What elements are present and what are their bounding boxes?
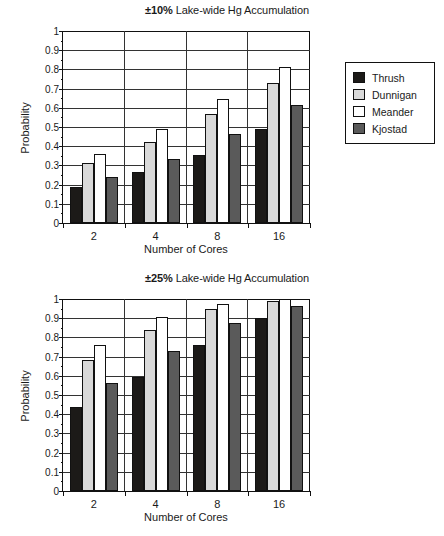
y-axis-tick-label: 0.3 <box>45 160 59 171</box>
y-axis-tick-label: 0.8 <box>45 64 59 75</box>
y-axis-tick-label: 0.1 <box>45 198 59 209</box>
bar-group <box>248 299 310 491</box>
bar-kjostad-16 <box>291 306 303 491</box>
plot-area-10pct: 00.10.20.30.40.50.60.70.80.91 24816 <box>62 31 310 224</box>
y-axis-label: Probability <box>18 31 32 224</box>
bar-thrush-8 <box>193 155 205 223</box>
x-axis-tick-mark <box>125 223 126 228</box>
bar-thrush-2 <box>70 407 82 491</box>
bar-thrush-16 <box>255 129 267 223</box>
y-axis-tick-label: 0.9 <box>45 313 59 324</box>
bar-dunnigan-2 <box>82 163 94 223</box>
y-axis-tick-label: 0.7 <box>45 351 59 362</box>
x-axis-tick-label: 16 <box>273 498 285 510</box>
y-axis-tick-label: 0.7 <box>45 83 59 94</box>
y-axis-tick-label: 0.6 <box>45 370 59 381</box>
x-axis-label: Number of Cores <box>62 511 310 523</box>
bar-group <box>187 299 249 491</box>
x-axis-tick-mark <box>310 223 311 228</box>
legend-item-dunnigan: Dunnigan <box>353 86 429 103</box>
legend-item-thrush: Thrush <box>353 69 429 86</box>
x-axis-tick-mark <box>63 491 64 496</box>
legend-label: Meander <box>372 106 413 118</box>
bar-dunnigan-16 <box>267 83 279 223</box>
chart-title-rest: Lake-wide Hg Accumulation <box>173 4 309 16</box>
legend-item-meander: Meander <box>353 103 429 120</box>
x-axis-tick-label: 16 <box>273 230 285 242</box>
x-axis-tick-label: 8 <box>214 498 220 510</box>
legend-swatch-thrush <box>353 72 365 83</box>
x-axis-tick-label: 4 <box>153 230 159 242</box>
x-axis-label: Number of Cores <box>62 243 310 255</box>
bar-group <box>248 31 310 223</box>
bar-kjostad-4 <box>168 159 180 223</box>
bar-meander-4 <box>156 317 168 491</box>
legend-label: Dunnigan <box>372 89 417 101</box>
bar-group <box>63 31 125 223</box>
bar-meander-8 <box>217 99 229 223</box>
bar-meander-2 <box>94 154 106 223</box>
x-axis-tick-label: 2 <box>91 498 97 510</box>
bar-thrush-16 <box>255 318 267 491</box>
bar-group <box>125 31 187 223</box>
bar-group <box>187 31 249 223</box>
bar-kjostad-2 <box>106 383 118 491</box>
chart-title-prefix: ±25% <box>145 272 173 284</box>
legend-swatch-kjostad <box>353 123 365 134</box>
bar-meander-16 <box>279 67 291 223</box>
chart-panel-10pct: ±10% Lake-wide Hg Accumulation Probabili… <box>0 0 444 268</box>
bar-kjostad-8 <box>229 134 241 223</box>
y-axis-tick-label: 0.4 <box>45 141 59 152</box>
y-axis-tick-label: 0.9 <box>45 45 59 56</box>
y-axis-tick-label: 0.2 <box>45 447 59 458</box>
bar-dunnigan-4 <box>144 330 156 491</box>
bar-dunnigan-2 <box>82 360 94 491</box>
chart-title-rest: Lake-wide Hg Accumulation <box>173 272 309 284</box>
legend-swatch-dunnigan <box>353 89 365 100</box>
x-axis-tick-mark <box>187 491 188 496</box>
bar-thrush-8 <box>193 345 205 491</box>
y-axis-tick-label: 0.1 <box>45 466 59 477</box>
legend-label: Thrush <box>372 72 405 84</box>
bar-groups <box>63 299 310 491</box>
bar-meander-2 <box>94 345 106 491</box>
y-axis-tick-label: 0.6 <box>45 102 59 113</box>
chart-panel-25pct: ±25% Lake-wide Hg Accumulation Probabili… <box>0 268 444 536</box>
x-axis-tick-mark <box>310 491 311 496</box>
bar-kjostad-2 <box>106 177 118 223</box>
y-axis-tick-label: 0.5 <box>45 390 59 401</box>
y-axis-label: Probability <box>18 299 32 492</box>
plot-area-25pct: 00.10.20.30.40.50.60.70.80.91 24816 <box>62 299 310 492</box>
bar-kjostad-4 <box>168 351 180 491</box>
bar-dunnigan-8 <box>205 309 217 491</box>
chart-title-25pct: ±25% Lake-wide Hg Accumulation <box>0 272 444 284</box>
bar-thrush-4 <box>132 172 144 223</box>
bar-group <box>125 299 187 491</box>
bar-dunnigan-4 <box>144 142 156 223</box>
bar-group <box>63 299 125 491</box>
x-axis-tick-mark <box>125 491 126 496</box>
bar-dunnigan-8 <box>205 114 217 223</box>
legend-label: Kjostad <box>372 123 407 135</box>
bar-meander-16 <box>279 299 291 491</box>
chart-title-10pct: ±10% Lake-wide Hg Accumulation <box>0 4 444 16</box>
x-axis-tick-label: 2 <box>91 230 97 242</box>
bar-dunnigan-16 <box>267 301 279 491</box>
chart-title-prefix: ±10% <box>145 4 173 16</box>
legend-item-kjostad: Kjostad <box>353 120 429 137</box>
bar-meander-8 <box>217 304 229 491</box>
legend: ThrushDunniganMeanderKjostad <box>345 62 435 144</box>
bar-kjostad-8 <box>229 323 241 491</box>
legend-swatch-meander <box>353 106 365 117</box>
y-axis-tick-label: 0.8 <box>45 332 59 343</box>
y-axis-tick-label: 0.3 <box>45 428 59 439</box>
bar-meander-4 <box>156 129 168 223</box>
x-axis-tick-mark <box>63 223 64 228</box>
bar-groups <box>63 31 310 223</box>
x-axis-tick-mark <box>248 491 249 496</box>
bar-kjostad-16 <box>291 105 303 223</box>
x-axis-tick-label: 4 <box>153 498 159 510</box>
y-axis-tick-label: 0.2 <box>45 179 59 190</box>
x-axis-tick-mark <box>248 223 249 228</box>
x-axis-tick-label: 8 <box>214 230 220 242</box>
